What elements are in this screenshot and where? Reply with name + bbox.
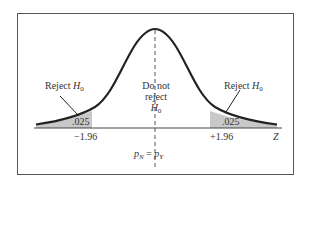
left-critical-value: −1.96	[74, 131, 97, 142]
right-area-label: .025	[222, 116, 240, 127]
right-rejection-region	[210, 111, 277, 128]
z-axis-label: Z	[273, 131, 279, 142]
null-hypothesis-equation: pN = pY	[134, 148, 163, 163]
left-pointer	[60, 96, 79, 116]
right-critical-value: +1.96	[210, 131, 233, 142]
do-not-reject-label: Do not reject H0	[139, 80, 173, 117]
left-reject-label: Reject H0	[45, 80, 84, 95]
left-area-label: .025	[72, 116, 90, 127]
right-reject-label: Reject H0	[224, 80, 263, 95]
